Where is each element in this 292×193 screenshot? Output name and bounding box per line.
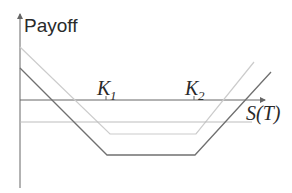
x-axis-label: S(T) bbox=[246, 102, 281, 125]
y-axis-label: Payoff bbox=[24, 15, 78, 36]
svg-text:1: 1 bbox=[110, 88, 117, 103]
dark-payoff-line bbox=[20, 68, 271, 155]
payoff-diagram: Payoff K 1 K 2 S(T) bbox=[0, 0, 292, 193]
svg-text:2: 2 bbox=[198, 88, 205, 103]
light-payoff-line bbox=[20, 47, 254, 134]
